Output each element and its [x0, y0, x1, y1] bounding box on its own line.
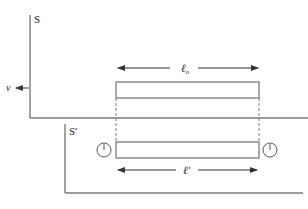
rod-s-prime-length: ℓ′	[118, 164, 257, 176]
rod-s-prime	[116, 142, 259, 158]
rod-s	[116, 82, 259, 98]
velocity-indicator: v	[6, 82, 29, 93]
rod-prime-length-label: ℓ′	[183, 164, 191, 176]
right-clock-icon	[263, 143, 277, 157]
velocity-label: v	[6, 82, 11, 93]
left-clock-icon	[97, 143, 111, 157]
frame-s-label: S	[34, 13, 40, 25]
frame-s: S	[30, 13, 308, 118]
projection-lines	[116, 98, 259, 142]
frame-s-prime-label: S′	[69, 125, 78, 137]
rod-length-label: ℓo	[181, 62, 190, 76]
relativity-length-contraction-diagram: S v ℓo S′ ℓ′	[0, 0, 308, 209]
rod-in-s: ℓo	[116, 62, 259, 98]
